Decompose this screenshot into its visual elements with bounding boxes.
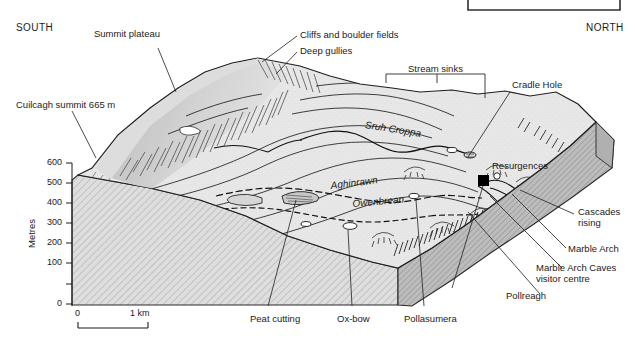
label-cradle-hole: Cradle Hole [512,79,562,90]
label-cliffs-boulder-fields: Cliffs and boulder fields [300,29,399,40]
axis-tick-200: 200 [36,237,62,247]
label-pollreagh: Pollreagh [506,290,546,301]
label-peat-cutting: Peat cutting [250,313,300,324]
axis-title-metres: Metres [26,219,37,248]
axis-tick-0: 0 [36,298,62,308]
stream-sinks-bracket [386,74,485,83]
label-cuilcagh-summit: Cuilcagh summit 665 m [16,99,115,110]
compass-north: NORTH [586,22,624,33]
label-summit-plateau: Summit plateau [94,28,160,39]
resurgences-marker [478,175,489,186]
axis-tick-400: 400 [36,197,62,207]
scalebar-start: 0 [75,308,80,318]
label-pollasumera: Pollasumera [404,313,457,324]
label-marble-arch-caves: Marble Arch Caves visitor centre [536,262,616,284]
label-ox-bow: Ox-bow [337,313,370,324]
label-marble-arch: Marble Arch [568,243,619,254]
axis-tick-500: 500 [36,177,62,187]
axis-tick-300: 300 [36,217,62,227]
scalebar-end: 1 km [130,308,150,318]
label-cascades-rising: Cascades rising [578,206,620,228]
label-cascades-rising-text: Cascades rising [578,206,620,228]
block-diagram-figure: SOUTH NORTH Summit plateau Cuilcagh summ… [0,0,635,340]
label-marble-arch-caves-text: Marble Arch Caves visitor centre [536,262,616,284]
label-stream-sinks: Stream sinks [408,63,463,74]
axis-tick-600: 600 [36,157,62,167]
label-resurgences: Resurgences [492,160,548,171]
title-frame-box [468,0,620,10]
axis-tick-100: 100 [36,257,62,267]
label-deep-gullies: Deep gullies [300,45,352,56]
compass-south: SOUTH [16,22,53,33]
elevation-axis [66,163,72,306]
scale-bar [78,322,148,328]
